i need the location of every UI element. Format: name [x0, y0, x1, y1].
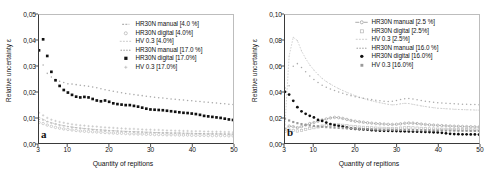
- x-tick-label: 3: [282, 146, 286, 153]
- legend-label: HR30N digital [2.5%]: [372, 27, 429, 36]
- legend-item[interactable]: HR30N manual [17.0 %]: [118, 46, 202, 55]
- legend-marker-filled-square: [118, 54, 133, 63]
- x-tick-label: 40: [189, 146, 196, 153]
- x-tick-label: 3: [36, 146, 40, 153]
- chart-panel-b: Relative uncertainty ε 0,000,020,040,060…: [246, 0, 492, 186]
- y-tick-label: 0,02: [269, 115, 282, 122]
- x-axis-title-b: Quantity of repitions: [246, 160, 492, 167]
- x-tick-label: 20: [351, 146, 358, 153]
- legend-label: HV 0.3 [4.0%]: [136, 37, 174, 46]
- legend-item[interactable]: HR30N manual [4.0 %]: [118, 20, 202, 29]
- legend-item[interactable]: HV 0.3 [16.0%]: [354, 61, 438, 70]
- x-tick-label: 20: [105, 146, 112, 153]
- panel-label-a: a: [41, 128, 47, 140]
- legend-label: HR30N digital [17.0%]: [136, 54, 197, 63]
- legend-marker-small-dot: [354, 44, 369, 53]
- legend-label: HR30N manual [4.0 %]: [136, 20, 199, 29]
- panel-label-b: b: [287, 126, 293, 138]
- y-axis-ticks-a: 0,000,010,020,030,040,05: [12, 0, 36, 186]
- legend-marker-line: [354, 35, 369, 44]
- x-axis-ticks-b: 31020304050: [246, 146, 492, 158]
- legend-marker-line: [118, 37, 133, 46]
- x-axis-ticks-a: 31020304050: [0, 146, 246, 158]
- legend-label: HR30N digital [4.0%]: [136, 29, 193, 38]
- legend-label: HR30N digital [16.0%]: [372, 52, 433, 61]
- x-tick-label: 50: [230, 146, 237, 153]
- y-tick-label: 0,04: [269, 89, 282, 96]
- legend-marker-open-square: [354, 27, 369, 36]
- legend-item[interactable]: HR30N manual [16.0 %]: [354, 44, 438, 53]
- x-tick-label: 10: [64, 146, 71, 153]
- legend-marker-plus: [118, 63, 133, 72]
- chart-panel-a: Relative uncertainty ε 0,000,010,020,030…: [0, 0, 246, 186]
- legend-label: HR30N manual [17.0 %]: [136, 46, 203, 55]
- legend-label: HR30N manual [2.5 %]: [372, 18, 435, 27]
- legend-marker-filled-square-gray: [354, 61, 369, 70]
- legend-item[interactable]: HR30N digital [4.0%]: [118, 29, 202, 38]
- x-tick-label: 30: [147, 146, 154, 153]
- legend-label: HV 0.3 [16.0%]: [372, 61, 414, 70]
- y-tick-label: 0,08: [269, 37, 282, 44]
- y-tick-label: 0,06: [269, 63, 282, 70]
- y-axis-ticks-b: 0,000,020,040,060,080,10: [258, 0, 282, 186]
- x-axis-title-a: Quantity of repitions: [0, 160, 246, 167]
- legend-label: HR30N manual [16.0 %]: [372, 44, 439, 53]
- legend-label: HV 0.3 [17.0%]: [136, 63, 178, 72]
- x-tick-label: 10: [310, 146, 317, 153]
- y-tick-label: 0,02: [23, 89, 36, 96]
- legend-item[interactable]: HR30N manual [2.5 %]: [354, 18, 438, 27]
- x-tick-label: 50: [476, 146, 483, 153]
- x-tick-label: 30: [393, 146, 400, 153]
- y-tick-label: 0,03: [23, 63, 36, 70]
- legend-item[interactable]: HV 0.3 [2.5%]: [354, 35, 438, 44]
- legend-a: HR30N manual [4.0 %]HR30N digital [4.0%]…: [118, 20, 202, 72]
- legend-label: HV 0.3 [2.5%]: [372, 35, 410, 44]
- legend-marker-open-circle-line: [354, 18, 369, 27]
- legend-item[interactable]: HV 0.3 [17.0%]: [118, 63, 202, 72]
- y-tick-label: 0,01: [23, 115, 36, 122]
- legend-item[interactable]: HV 0.3 [4.0%]: [118, 37, 202, 46]
- y-tick-label: 0,05: [23, 11, 36, 18]
- x-tick-label: 40: [435, 146, 442, 153]
- legend-b: HR30N manual [2.5 %]HR30N digital [2.5%]…: [354, 18, 438, 70]
- legend-marker-filled-circle: [354, 52, 369, 61]
- y-tick-label: 0,10: [269, 11, 282, 18]
- legend-marker-open-circle: [118, 29, 133, 38]
- figure-sheet: Relative uncertainty ε 0,000,010,020,030…: [0, 0, 492, 186]
- y-tick-label: 0,04: [23, 37, 36, 44]
- legend-item[interactable]: HR30N digital [2.5%]: [354, 27, 438, 36]
- legend-item[interactable]: HR30N digital [17.0%]: [118, 54, 202, 63]
- legend-marker-small-dot: [118, 46, 133, 55]
- legend-item[interactable]: HR30N digital [16.0%]: [354, 52, 438, 61]
- legend-marker-dash: [118, 20, 133, 29]
